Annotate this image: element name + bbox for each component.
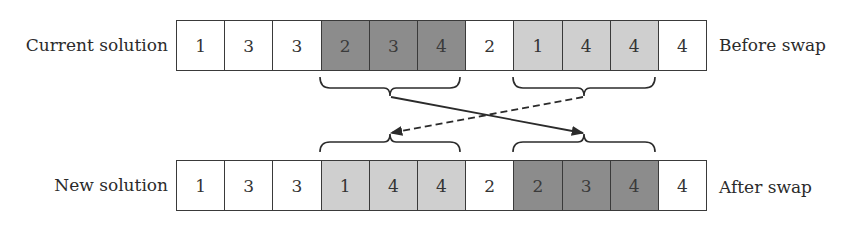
array-cell: 4 [611, 161, 659, 210]
array-cell: 2 [466, 161, 514, 210]
array-cell: 4 [611, 21, 659, 70]
array-cell: 4 [563, 21, 611, 70]
array-cell: 3 [563, 161, 611, 210]
array-cell: 4 [659, 161, 706, 210]
array-cell: 1 [514, 21, 562, 70]
array-cell: 3 [225, 161, 273, 210]
array-cell: 2 [514, 161, 562, 210]
array-cell: 1 [177, 161, 225, 210]
after-swap-label: After swap [719, 177, 812, 197]
array-cell: 3 [273, 161, 321, 210]
brace-bottom-right [513, 134, 655, 152]
solid-swap-arrow [391, 97, 583, 133]
dashed-swap-arrow [391, 97, 583, 133]
array-cell: 3 [273, 21, 321, 70]
array-cell: 2 [466, 21, 514, 70]
brace-top-light [513, 77, 655, 96]
array-cell: 3 [370, 21, 418, 70]
array-cell: 3 [225, 21, 273, 70]
array-cell: 4 [418, 161, 466, 210]
array-cell: 1 [322, 161, 370, 210]
array-cell: 1 [177, 21, 225, 70]
array-cell: 4 [370, 161, 418, 210]
brace-bottom-left [320, 134, 460, 152]
array-cell: 2 [322, 21, 370, 70]
new-solution-array: 1 3 3 1 4 4 2 2 3 4 4 [176, 160, 707, 211]
current-solution-label: Current solution [0, 35, 168, 55]
new-solution-label: New solution [0, 175, 168, 195]
array-cell: 4 [659, 21, 706, 70]
brace-top-dark [320, 77, 460, 96]
array-cell: 4 [418, 21, 466, 70]
before-swap-label: Before swap [719, 35, 826, 55]
current-solution-array: 1 3 3 2 3 4 2 1 4 4 4 [176, 20, 707, 71]
